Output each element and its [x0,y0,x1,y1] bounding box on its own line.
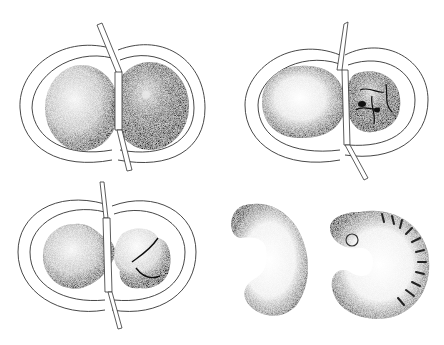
embryo-right [330,211,429,319]
figure-caption [32,339,432,345]
panel-a [20,23,205,171]
panel-c [18,182,196,329]
panel-d [231,204,429,319]
embryo-left [231,204,308,316]
illustration-canvas [0,0,444,345]
scientific-illustration [0,0,444,345]
lobed-cell [114,228,170,288]
smooth-sphere [262,66,347,138]
panel-b [245,22,428,180]
cell-left [45,65,119,151]
